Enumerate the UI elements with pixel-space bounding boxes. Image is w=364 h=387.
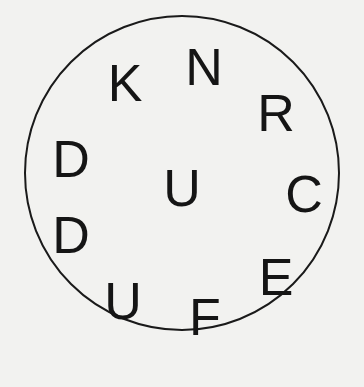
letter-c: C <box>285 168 323 220</box>
letter-d: D <box>52 209 90 261</box>
letter-d: D <box>52 133 90 185</box>
letter-k: K <box>108 57 143 109</box>
letter-e: E <box>259 251 294 303</box>
letter-u: U <box>104 275 142 327</box>
letter-f: F <box>189 291 221 343</box>
letter-u: U <box>163 162 201 214</box>
letter-r: R <box>257 87 295 139</box>
letter-n: N <box>185 41 223 93</box>
